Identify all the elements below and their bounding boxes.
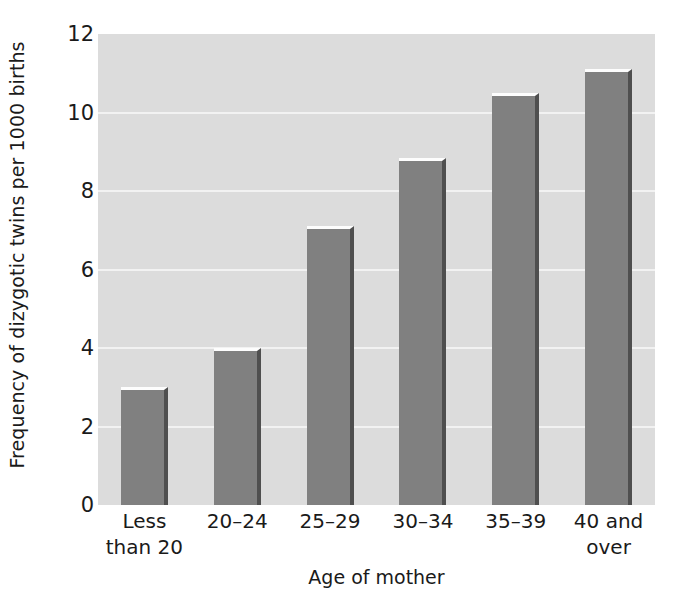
x-axis-tick-labels: Lessthan 2020–2425–2930–3435–3940 andove…	[98, 508, 655, 572]
x-axis-tick-label: 25–29	[284, 508, 377, 534]
y-axis-tick-label: 6	[81, 259, 94, 280]
plot-area	[98, 34, 655, 505]
x-axis-title: Age of mother	[98, 566, 655, 588]
bar-series	[98, 34, 655, 505]
x-axis-tick-label: 40 andover	[562, 508, 655, 560]
bar-slot	[562, 34, 655, 505]
y-axis-tick-label: 8	[81, 181, 94, 202]
bar-slot	[191, 34, 284, 505]
bar[interactable]	[399, 158, 446, 505]
bar-slot	[469, 34, 562, 505]
bar-slot	[98, 34, 191, 505]
bar[interactable]	[214, 348, 261, 505]
bar-slot	[284, 34, 377, 505]
y-axis-tick-label: 2	[81, 416, 94, 437]
y-axis-tick-label: 4	[81, 338, 94, 359]
y-axis-tick-label: 10	[67, 102, 94, 123]
y-axis-tick-label: 0	[81, 495, 94, 516]
bar-slot	[376, 34, 469, 505]
y-axis-tick-label: 12	[67, 24, 94, 45]
x-axis-tick-label: 35–39	[469, 508, 562, 534]
x-axis-tick-label: 30–34	[377, 508, 470, 534]
bar[interactable]	[585, 69, 632, 505]
bar[interactable]	[121, 387, 168, 505]
bar[interactable]	[492, 93, 539, 505]
x-axis-tick-label: 20–24	[191, 508, 284, 534]
bar[interactable]	[307, 226, 354, 505]
y-axis-tick-labels: 024681012	[56, 34, 94, 505]
y-axis-title: Frequency of dizygotic twins per 1000 bi…	[0, 0, 34, 510]
bar-chart-figure: Frequency of dizygotic twins per 1000 bi…	[0, 0, 677, 606]
x-axis-tick-label: Lessthan 20	[98, 508, 191, 560]
